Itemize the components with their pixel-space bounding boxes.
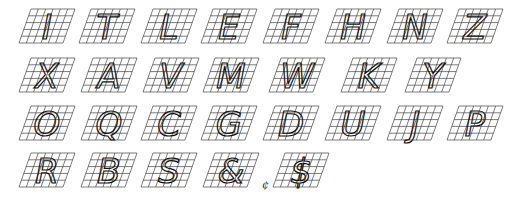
letter-tile: $$ — [272, 152, 332, 190]
svg-text:W: W — [280, 56, 315, 96]
svg-text:&: & — [218, 151, 245, 191]
svg-text:U: U — [341, 104, 366, 144]
svg-text:B: B — [97, 151, 120, 191]
svg-text:I: I — [42, 7, 52, 47]
svg-text:Q: Q — [96, 104, 123, 144]
svg-text:N: N — [402, 7, 427, 47]
letter-tile: KK — [340, 57, 400, 95]
letter-tile: MM — [202, 57, 262, 95]
letter-tile: FF — [262, 8, 322, 46]
letter-tile: DD — [262, 105, 322, 143]
letter-tile: OO — [18, 105, 78, 143]
svg-text:K: K — [358, 56, 383, 96]
svg-text:$: $ — [290, 151, 312, 191]
letter-tile: BB — [80, 152, 140, 190]
svg-text:M: M — [216, 56, 245, 96]
svg-text:S: S — [158, 151, 180, 191]
letter-tile: EE — [200, 8, 260, 46]
letter-tile: QQ — [80, 105, 140, 143]
svg-text:V: V — [159, 56, 185, 96]
letter-tile: HH — [324, 8, 384, 46]
letter-tile: UU — [324, 105, 384, 143]
letter-tile: AA — [80, 57, 140, 95]
letter-tile: RR — [18, 152, 78, 190]
svg-text:Z: Z — [462, 7, 487, 47]
svg-text:C: C — [157, 104, 181, 144]
svg-text:F: F — [281, 7, 301, 47]
svg-text:H: H — [340, 7, 366, 47]
letter-tile: GG — [200, 105, 260, 143]
letter-tile: WW — [268, 57, 328, 95]
svg-text:R: R — [35, 151, 59, 191]
letter-tile: LL — [140, 8, 200, 46]
svg-text:D: D — [278, 104, 304, 144]
svg-text:G: G — [216, 104, 242, 144]
letter-tile: && — [202, 152, 262, 190]
letter-tile: CC — [140, 105, 200, 143]
svg-text:X: X — [33, 56, 59, 96]
letter-tile: XX — [18, 57, 78, 95]
letter-tile: VV — [142, 57, 202, 95]
svg-text:P: P — [465, 104, 486, 144]
letter-tile: SS — [140, 152, 200, 190]
svg-text:J: J — [404, 104, 420, 144]
svg-text:O: O — [34, 104, 61, 144]
letter-tile: NN — [386, 8, 446, 46]
letter-tile: PP — [446, 105, 506, 143]
svg-text:E: E — [218, 7, 240, 47]
svg-text:A: A — [95, 56, 120, 96]
cent-mark: ¢ — [262, 178, 269, 191]
svg-text:T: T — [97, 7, 120, 47]
letter-tile: ZZ — [446, 8, 506, 46]
letter-tile: II — [18, 8, 78, 46]
letter-tile: YY — [404, 57, 464, 95]
svg-text:L: L — [160, 7, 179, 47]
svg-text:Y: Y — [423, 56, 446, 96]
letter-tile: JJ — [386, 105, 446, 143]
letter-tile: TT — [78, 8, 138, 46]
